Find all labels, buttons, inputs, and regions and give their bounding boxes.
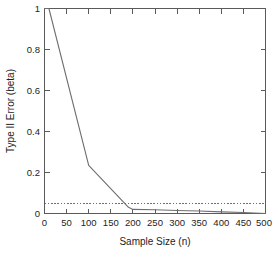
x-tick-label: 250 — [147, 217, 163, 228]
x-tick-label: 450 — [235, 217, 251, 228]
y-axis-ticks — [45, 9, 50, 214]
x-tick-label: 100 — [81, 217, 97, 228]
figure-canvas: 0 50 100 150 200 250 300 350 400 450 500… — [0, 0, 276, 254]
type-ii-error-line-chart: 0 50 100 150 200 250 300 350 400 450 500… — [0, 0, 276, 254]
x-axis-ticks — [45, 209, 266, 214]
y-tick-labels: 0 0.2 0.4 0.6 0.8 1 — [27, 3, 40, 219]
x-tick-labels: 0 50 100 150 200 250 300 350 400 450 500 — [42, 217, 272, 228]
y-axis-title: Type II Error (beta) — [5, 69, 16, 153]
x-axis-title: Sample Size (n) — [119, 236, 190, 247]
y-tick-label: 1 — [35, 3, 40, 14]
x-tick-label: 350 — [191, 217, 207, 228]
type-ii-error-curve — [45, 9, 266, 214]
x-tick-label: 500 — [256, 217, 272, 228]
plot-frame — [45, 9, 266, 214]
y-tick-label: 0 — [35, 208, 40, 219]
x-tick-label: 150 — [103, 217, 119, 228]
x-tick-label: 50 — [61, 217, 72, 228]
x-tick-label: 400 — [213, 217, 229, 228]
x-tick-label: 300 — [169, 217, 185, 228]
x-tick-label: 200 — [125, 217, 141, 228]
y-tick-label: 0.6 — [27, 85, 40, 96]
x-tick-label: 0 — [42, 217, 47, 228]
y-tick-label: 0.8 — [27, 44, 40, 55]
y-tick-label: 0.4 — [27, 126, 40, 137]
x-axis-ticks-top — [45, 9, 266, 14]
y-axis-ticks-right — [261, 9, 266, 214]
y-tick-label: 0.2 — [27, 167, 40, 178]
